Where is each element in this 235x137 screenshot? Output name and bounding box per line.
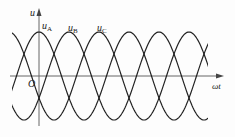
x-axis-label: ωt: [212, 82, 221, 91]
curve-label-uC: uC: [97, 23, 107, 35]
origin-label: O: [28, 79, 35, 89]
waveform-plot: [0, 0, 235, 137]
three-phase-waveform-diagram: u O ωt uA uB uC: [0, 0, 235, 137]
y-axis-label: u: [30, 8, 35, 18]
curve-label-uA: uA: [42, 21, 52, 33]
curve-label-uB: uB: [68, 23, 78, 35]
y-axis-arrow-icon: [37, 8, 42, 16]
x-axis-arrow-icon: [216, 74, 224, 79]
